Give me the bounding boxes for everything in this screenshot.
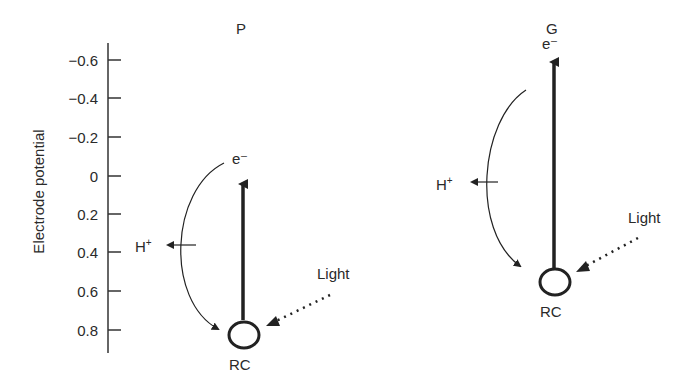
panel-p-rc-label: RC xyxy=(229,357,251,372)
tick-label: 0.2 xyxy=(38,207,98,222)
tick-label: −0.6 xyxy=(38,53,98,68)
y-axis-label: Electrode potential xyxy=(30,92,47,292)
panel-p-graphics xyxy=(168,163,330,348)
panel-p-light-label: Light xyxy=(317,266,350,281)
tick-label: −0.4 xyxy=(38,91,98,106)
panel-g-light-label: Light xyxy=(628,210,661,225)
panel-g-rc-label: RC xyxy=(540,304,562,319)
panel-g-graphics xyxy=(472,62,638,295)
tick-label: 0.6 xyxy=(38,284,98,299)
tick-label: 0 xyxy=(38,169,98,184)
tick-label: 0.8 xyxy=(38,323,98,338)
diagram-graphics xyxy=(0,0,692,392)
panel-p-title: P xyxy=(236,21,246,36)
tick-label: −0.2 xyxy=(38,130,98,145)
panel-g-title: G xyxy=(546,21,558,36)
panel-g-electron-label: e⁻ xyxy=(542,36,558,51)
y-axis xyxy=(108,43,121,353)
panel-p-electron-label: e⁻ xyxy=(232,151,248,166)
panel-g-proton-label: H+ xyxy=(436,176,453,192)
tick-label: 0.4 xyxy=(38,245,98,260)
panel-p-proton-label: H+ xyxy=(135,238,152,254)
